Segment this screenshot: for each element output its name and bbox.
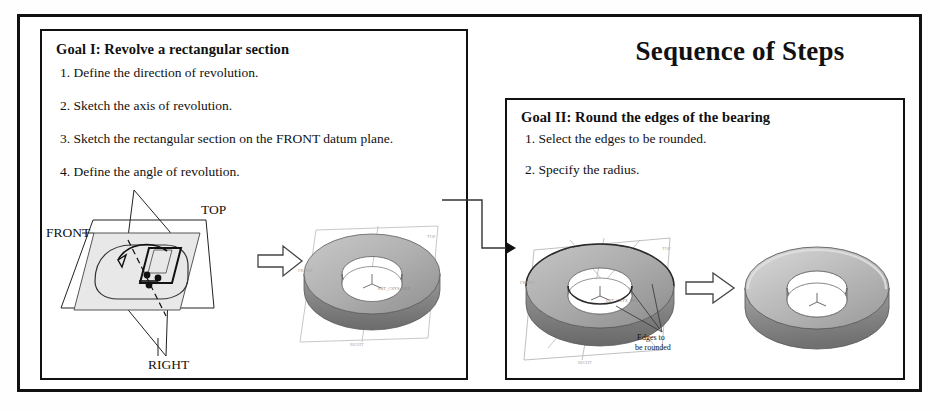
- goal-1-step: 2. Sketch the axis of revolution.: [60, 98, 460, 114]
- goal-2-heading: Goal II: Round the edges of the bearing: [521, 109, 770, 126]
- connector-goal1-to-goal2: [440, 198, 515, 268]
- goal-1-step: 4. Define the angle of revolution.: [60, 164, 460, 180]
- datum-micro-label: TOP: [427, 234, 436, 239]
- goal-1-step: 3. Sketch the rectangular section on the…: [60, 131, 460, 147]
- datum-point: [146, 282, 153, 289]
- datum-point: [144, 272, 151, 279]
- datum-micro-label: RIGHT: [350, 342, 364, 347]
- datum-micro-label: FRONT: [520, 280, 535, 285]
- csys-micro-label: PRT_CSYS_DEF: [378, 286, 411, 291]
- datum-micro-label: TOP: [662, 246, 671, 251]
- bearing-rounded-figure: [735, 232, 900, 372]
- connector-path: [442, 200, 506, 248]
- goal-1-step: 1. Define the direction of revolution.: [60, 65, 460, 81]
- right-plane-label: RIGHT: [148, 357, 190, 372]
- edges-annotation-line2: be rounded: [635, 343, 671, 352]
- bearing-edges-figure: PRT_CSYS_DEF FRONT TOP RIGHT Edges to be…: [512, 228, 692, 376]
- datum-micro-label: FRONT: [298, 268, 313, 273]
- datum-planes-figure: TOP FRONT RIGHT: [48, 188, 258, 378]
- page-title: Sequence of Steps: [575, 36, 905, 67]
- datum-micro-label: RIGHT: [578, 360, 592, 365]
- goal-2-step: 2. Specify the radius.: [525, 162, 895, 178]
- goal-2-step-list: 1. Select the edges to be rounded. 2. Sp…: [525, 131, 895, 193]
- revolved-ring-figure: PRT_CSYS_DEF FRONT TOP RIGHT: [288, 212, 453, 362]
- goal-2-step: 1. Select the edges to be rounded.: [525, 131, 895, 147]
- edges-annotation-line1: Edges to: [637, 333, 665, 342]
- goal-1-heading: Goal I: Revolve a rectangular section: [56, 41, 289, 58]
- top-plane-label: TOP: [201, 202, 226, 217]
- block-arrow-edges-to-rounded: [684, 270, 736, 306]
- slide-root: Sequence of Steps Goal I: Revolve a rect…: [0, 0, 940, 411]
- front-plane-label: FRONT: [46, 225, 91, 240]
- csys-micro-label: PRT_CSYS_DEF: [606, 298, 639, 303]
- goal-1-step-list: 1. Define the direction of revolution. 2…: [60, 65, 460, 197]
- block-arrow-right-icon: [686, 273, 734, 303]
